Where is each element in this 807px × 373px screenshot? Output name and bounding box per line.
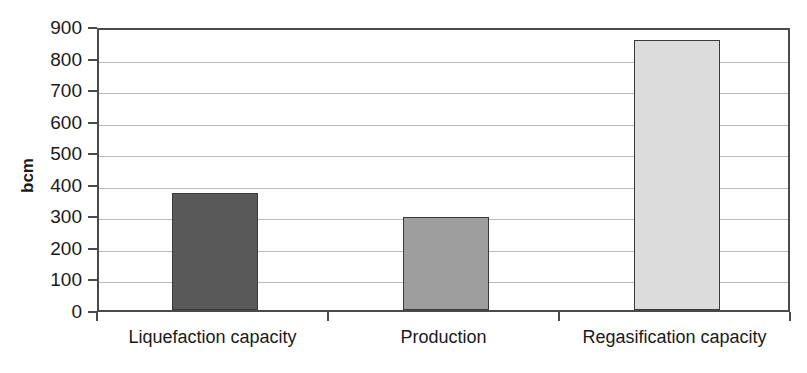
y-axis-tick-label: 200 (30, 239, 82, 258)
y-axis-tick (88, 185, 97, 187)
y-axis-tick-label: 100 (30, 270, 82, 289)
x-axis-category-label: Regasification capacity (559, 328, 790, 348)
y-axis-tick (88, 59, 97, 61)
x-axis-category-label: Liquefaction capacity (97, 328, 328, 348)
y-axis-tick-label: 900 (30, 18, 82, 37)
y-axis-tick (88, 153, 97, 155)
y-axis-tick-label: 600 (30, 113, 82, 132)
y-axis-tick-label: 500 (30, 144, 82, 163)
y-axis-tick (88, 122, 97, 124)
x-axis-tick (96, 312, 98, 321)
bar-chart: bcm 0100200300400500600700800900 Liquefa… (0, 0, 807, 373)
plot-area (97, 28, 790, 312)
y-axis-tick (88, 248, 97, 250)
y-axis-tick-label: 0 (30, 302, 82, 321)
bar-3 (634, 40, 720, 310)
y-axis-tick (88, 27, 97, 29)
y-axis-tick-label: 700 (30, 81, 82, 100)
y-axis-tick (88, 279, 97, 281)
y-axis-tick-label: 400 (30, 176, 82, 195)
x-axis-tick (327, 312, 329, 321)
y-axis-tick (88, 216, 97, 218)
bar-1 (172, 193, 258, 310)
y-axis-tick-label: 300 (30, 207, 82, 226)
y-axis-tick (88, 90, 97, 92)
bar-2 (403, 217, 489, 310)
x-axis-tick (789, 312, 791, 321)
x-axis-tick (558, 312, 560, 321)
x-axis-category-label: Production (328, 328, 559, 348)
y-axis-tick-label: 800 (30, 50, 82, 69)
